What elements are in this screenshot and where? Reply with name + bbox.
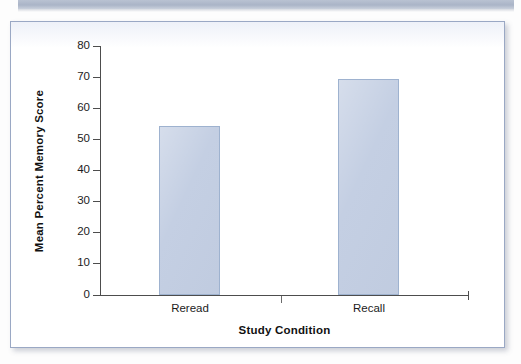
- y-axis-tick-label-10-wrap: 10: [21, 257, 90, 269]
- y-axis-tick-label-0-wrap: 0: [21, 289, 90, 301]
- x-axis-category-label-recall: Recall: [308, 303, 430, 315]
- bar-chart-plot-area: 0 10 20 30 40 50 60: [11, 22, 506, 349]
- y-axis-tick-label-50-wrap: 50: [21, 133, 90, 145]
- y-axis-tick-60: [93, 108, 100, 109]
- y-axis-title: Mean Percent Memory Score: [33, 81, 45, 261]
- bar-recall-sheen: [339, 80, 398, 294]
- y-axis-tick-70: [93, 77, 100, 78]
- x-axis-category-label-reread: Reread: [129, 303, 251, 315]
- y-axis-tick-50: [93, 139, 100, 140]
- y-axis-tick-40: [93, 170, 100, 171]
- x-axis-center-tick: [281, 296, 282, 303]
- y-axis-tick-label-20-wrap: 20: [21, 226, 90, 238]
- x-axis-end-tick: [468, 291, 469, 300]
- bar-reread-sheen: [160, 127, 219, 294]
- chart-panel: 0 10 20 30 40 50 60: [10, 21, 505, 348]
- y-axis-tick-label-70-wrap: 70: [21, 71, 90, 83]
- y-axis-tick-label-30-wrap: 30: [21, 195, 90, 207]
- y-axis-tick-30: [93, 201, 100, 202]
- y-axis-line: [100, 46, 101, 296]
- page-root: 0 10 20 30 40 50 60: [0, 0, 521, 364]
- y-axis-tick-label-0: 0: [28, 289, 90, 301]
- bar-recall[interactable]: [338, 79, 399, 295]
- x-axis-title: Study Condition: [100, 324, 469, 336]
- y-axis-tick-20: [93, 232, 100, 233]
- y-axis-tick-0: [93, 295, 100, 296]
- y-axis-tick-label-60-wrap: 60: [21, 102, 90, 114]
- y-axis-tick-label-80: 80: [28, 40, 90, 52]
- x-axis-line: [100, 295, 469, 296]
- y-axis-tick-label-80-wrap: 80: [21, 40, 90, 52]
- y-axis-tick-label-40-wrap: 40: [21, 164, 90, 176]
- y-axis-tick-10: [93, 263, 100, 264]
- bar-reread[interactable]: [159, 126, 220, 295]
- page-header-band-shadow: [18, 9, 514, 12]
- page-header-band: [18, 0, 514, 9]
- y-axis-tick-80: [93, 46, 100, 47]
